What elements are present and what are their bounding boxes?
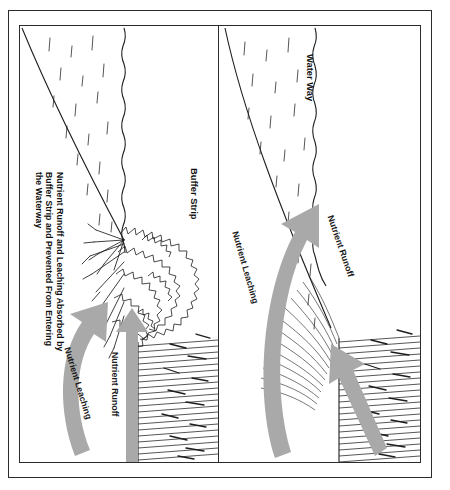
buffer-strip-label: Buffer Strip <box>189 168 200 220</box>
absorbed-note-label: Nutrient Runoff and Leaching Absorbed by… <box>34 172 66 358</box>
nutrient-leaching-arrow-right <box>264 204 319 458</box>
water-way-label: Water Way <box>305 54 316 101</box>
waterway-right-bank <box>122 28 126 253</box>
panel-without-buffer-strip: Water Way <box>219 26 420 462</box>
nutrient-runoff-arrow-left <box>116 308 148 462</box>
panel-divider <box>218 26 219 462</box>
unbuffered-panel-artwork <box>219 26 420 462</box>
nutrient-runoff-caption-left: Nutrient Runoff <box>110 352 120 417</box>
diagram-canvas: Nutrient Runoff and Leaching Absorbed by… <box>0 0 450 490</box>
buffer-strip-vegetation <box>112 227 199 358</box>
crop-field-hatching <box>138 340 218 460</box>
nutrient-leaching-arrow-left <box>63 302 108 456</box>
nutrient-runoff-arrow-right <box>329 344 387 456</box>
